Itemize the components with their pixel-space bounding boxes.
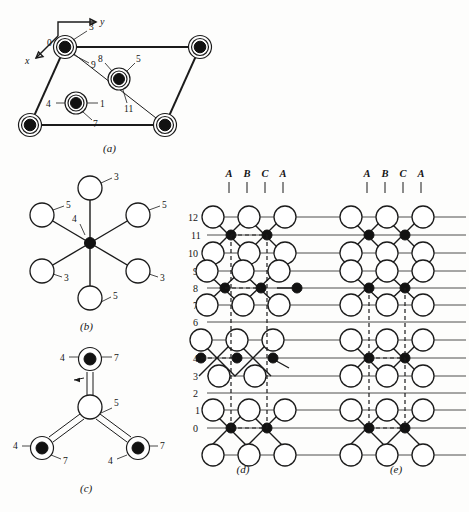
panel-b-caption: (b) (80, 320, 93, 333)
panel-c-label-top-left: 4 (60, 353, 65, 363)
panel-b-label-upper-left: 5 (66, 200, 71, 210)
panel-e-lattice: (e) (340, 206, 434, 476)
panel-b-center-atom (85, 238, 96, 249)
lattice-open-circle (340, 399, 362, 421)
row-number-6: 6 (193, 317, 198, 328)
lattice-filled-circle (364, 230, 374, 240)
panel-c-label-bl-left: 4 (13, 441, 18, 451)
lattice-open-circle (208, 365, 230, 387)
panel-e-stack-A2: A (416, 168, 424, 179)
axis-label-y: y (99, 16, 105, 27)
panel-a-label-11: 11 (124, 104, 133, 114)
panel-d-stack-A2: A (278, 168, 286, 179)
lattice-open-circle (376, 294, 398, 316)
lattice-open-circle (244, 365, 266, 387)
panel-d-stacking-header: A B C A (224, 168, 286, 193)
panel-b-label-bottom: 5 (113, 291, 118, 301)
panel-e-stacking-header: A B C A (362, 168, 424, 193)
panel-a: y x (19, 16, 212, 155)
panel-b-neighbor-top (78, 176, 102, 200)
row-number-10: 10 (188, 248, 198, 259)
corner-atom-bottom-left (19, 114, 42, 137)
lattice-open-circle (412, 399, 434, 421)
lattice-open-circle (340, 260, 362, 282)
interior-atom-upper (108, 68, 130, 90)
panel-c-atom-top (79, 348, 102, 371)
lattice-open-circle (376, 260, 398, 282)
panel-d-stack-C: C (261, 168, 269, 179)
lattice-open-circle (274, 444, 296, 466)
panel-b-neighbor-upper-left (30, 203, 54, 227)
panel-d-slab-bottom (202, 399, 296, 466)
lattice-open-circle (202, 399, 224, 421)
panel-c-label-br-right: 7 (160, 441, 165, 451)
panel-c-atom-bottom-right (127, 437, 150, 460)
lattice-open-circle (238, 206, 260, 228)
panel-a-label-1: 1 (100, 99, 105, 109)
panel-b: 3 5 5 3 3 5 4 (b) (30, 172, 167, 333)
panel-a-label-9: 9 (91, 60, 96, 70)
row-number-3: 3 (193, 371, 198, 382)
panel-b-neighbor-bottom (78, 286, 102, 310)
lattice-open-circle (226, 329, 248, 351)
row-number-12: 12 (188, 212, 198, 223)
row-number-2: 2 (193, 388, 198, 399)
panel-c-center-atom (78, 395, 102, 419)
panel-c-label-bl-right: 7 (63, 456, 68, 466)
lattice-open-circle (340, 444, 362, 466)
row-number-axis: 12 11 10 9 8 7 6 5 4 3 2 1 0 (188, 212, 201, 434)
lattice-open-circle (376, 399, 398, 421)
panel-a-label-0: 0 (47, 38, 52, 48)
panel-e-stack-A1: A (362, 168, 370, 179)
lattice-open-circle (412, 329, 434, 351)
panel-d-stack-B: B (242, 168, 250, 179)
figure-root: y x (0, 0, 469, 512)
lattice-open-circle (190, 329, 212, 351)
panel-d-lattice: (d) (190, 206, 302, 476)
axis-label-x: x (24, 55, 30, 66)
panel-b-label-top: 3 (114, 172, 119, 182)
panel-b-neighbor-upper-right (126, 203, 150, 227)
lattice-open-circle (340, 294, 362, 316)
lattice-open-circle (412, 444, 434, 466)
lattice-open-circle (412, 260, 434, 282)
lattice-open-circle (340, 329, 362, 351)
panel-b-neighbor-lower-left (30, 259, 54, 283)
panel-d-stack-A1: A (224, 168, 232, 179)
panel-c-label-center: 5 (114, 398, 119, 408)
lattice-open-circle (202, 206, 224, 228)
panel-a-label-4: 4 (46, 99, 51, 109)
lattice-open-circle (412, 294, 434, 316)
lattice-filled-circle (268, 353, 278, 363)
row-number-0: 0 (193, 423, 198, 434)
lattice-open-circle (340, 206, 362, 228)
lattice-open-circle (196, 260, 218, 282)
panel-e-stack-B: B (380, 168, 388, 179)
panel-a-label-7: 7 (93, 119, 98, 129)
row-number-11: 11 (191, 230, 201, 241)
lattice-open-circle (268, 294, 290, 316)
panel-c-atom-bottom-left (31, 437, 54, 460)
lattice-open-circle (274, 399, 296, 421)
panel-b-label-lower-right: 3 (160, 273, 165, 283)
panel-c-label-br-left: 4 (108, 456, 113, 466)
corner-atom-bottom-right (154, 114, 177, 137)
lattice-open-circle (376, 206, 398, 228)
lattice-open-circle (376, 365, 398, 387)
panel-c-arrow-head-icon (74, 378, 80, 382)
lattice-open-circle (202, 444, 224, 466)
panel-e-slab-bottom (340, 399, 434, 466)
lattice-open-circle (262, 329, 284, 351)
panel-e-caption: (e) (390, 463, 403, 476)
panel-b-neighbor-lower-right (126, 259, 150, 283)
lattice-open-circle (196, 294, 218, 316)
lattice-open-circle (376, 329, 398, 351)
lattice-open-circle (412, 206, 434, 228)
panel-b-label-center: 4 (72, 214, 77, 224)
corner-atom-top-right (189, 36, 212, 59)
lattice-open-circle (232, 294, 254, 316)
panel-c-caption: (c) (80, 482, 93, 495)
panel-d-caption: (d) (237, 463, 250, 476)
crystal-structure-figure: y x (0, 0, 469, 512)
panel-a-label-3: 3 (89, 22, 94, 32)
